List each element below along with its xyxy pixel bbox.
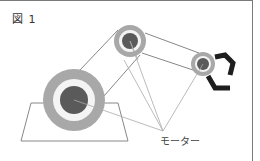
arm-link-upper-1 (80, 30, 118, 70)
robot-arm-diagram (0, 0, 260, 161)
arm-link-fore-2 (142, 53, 193, 70)
arm-link-fore-1 (145, 33, 199, 53)
motor-label: モーター (160, 133, 200, 148)
arm-link-upper-2 (104, 55, 140, 96)
figure-label: 図 1 (12, 10, 37, 26)
